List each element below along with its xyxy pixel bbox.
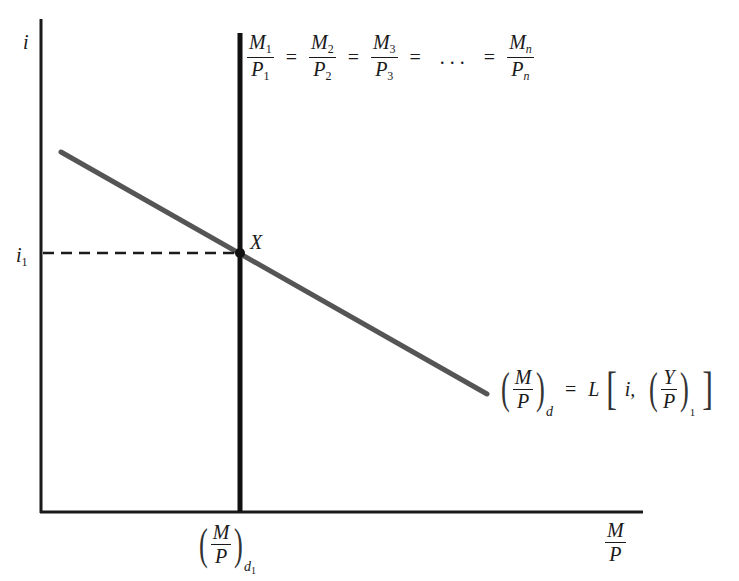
demand-function: L [588,378,599,400]
ellipsis: . . . [440,46,465,68]
equals-sign: = [286,46,297,68]
equals-sign: = [484,46,495,68]
x-axis-label: MP [605,520,626,565]
equilibrium-label: X [250,232,262,252]
demand-arg-interest: i, [625,378,636,400]
demand-lhs: MP [513,367,534,412]
supply-equation: M1P1 = M2P2 = M3P3 = . . . = MnPn [247,32,534,82]
equals-sign: = [410,46,421,68]
supply-term-2: M2P2 [309,32,336,82]
income-subscript: 1 [690,406,696,418]
supply-term-3: M3P3 [371,32,398,82]
demand-arg-income: YP [661,367,677,412]
demand-subscript: d [546,404,553,419]
x-tick-label: (MP)d1 [196,522,256,576]
equals-sign: = [565,378,576,400]
demand-equation: (MP)d = L [ i, (YP)1 ] [498,366,716,419]
equilibrium-point [235,248,245,258]
money-demand-line [61,152,487,394]
y-axis-label: i [23,32,29,52]
interest-level-subscript: 1 [22,255,28,269]
equals-sign: = [348,46,359,68]
interest-level-label: i1 [16,245,28,268]
diagram-canvas [0,0,739,581]
supply-term-1: M1P1 [247,32,274,82]
supply-term-n: MnPn [507,32,534,82]
